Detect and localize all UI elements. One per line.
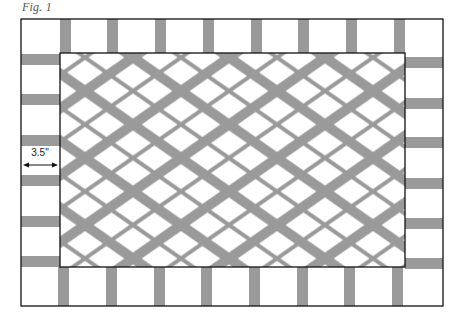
border-width-label: 3.5" (22, 147, 58, 158)
quilt-diagram (0, 0, 461, 326)
lattice-panel (60, 53, 405, 267)
